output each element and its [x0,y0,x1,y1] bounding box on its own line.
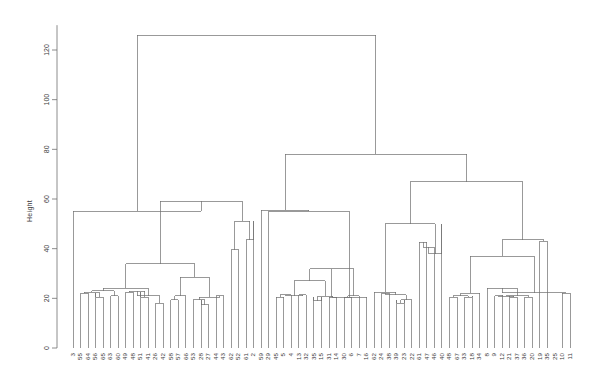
leaf-label: 6 [347,352,354,356]
leaf-label: 49 [121,352,128,359]
leaf-label: 62 [227,352,234,359]
leaf-label: 34 [475,352,482,359]
leaf-label: 27 [204,352,211,359]
leaf-label: 37 [513,352,520,359]
leaf-label: 48 [445,352,452,359]
leaf-label: 2 [249,352,256,356]
leaf-label: 52 [234,352,241,359]
leaf-label: 39 [392,352,399,359]
leaf-label: 29 [264,352,271,359]
leaf-label: 22 [408,352,415,359]
leaf-label: 11 [566,352,573,359]
leaf-label: 43 [219,352,226,359]
leaf-label: 21 [505,352,512,359]
y-axis-tick-label: 120 [43,44,50,56]
y-axis-tick-label: 0 [43,346,50,350]
leaf-label: 24 [377,352,384,359]
leaf-label: 40 [438,352,445,359]
leaf-label: 4 [287,352,294,356]
leaf-label: 41 [144,352,151,359]
leaf-label: 35 [543,352,550,359]
leaf-label: 61 [415,352,422,359]
y-axis-tick-label: 20 [43,294,50,302]
leaf-label: 9 [490,352,497,356]
y-axis-tick-label: 80 [43,145,50,153]
leaf-label: 59 [257,352,264,359]
y-axis-tick-label: 60 [43,195,50,203]
leaf-label: 16 [362,352,369,359]
leaf-label: 51 [136,352,143,359]
leaf-label: 12 [498,352,505,359]
dendrogram-canvas: 0204060801001203556456656360494851412642… [0,0,603,389]
leaf-label: 64 [84,352,91,359]
leaf-label: 55 [76,352,83,359]
leaf-label: 26 [151,352,158,359]
dendrogram-figure: Height 020406080100120355645665636049485… [0,0,603,389]
leaf-label: 56 [91,352,98,359]
leaf-label: 10 [558,352,565,359]
leaf-label: 13 [295,352,302,359]
leaf-label: 62 [370,352,377,359]
y-axis-title: Height [26,200,33,222]
leaf-label: 67 [453,352,460,359]
leaf-label: 58 [167,352,174,359]
leaf-label: 61 [242,352,249,359]
leaf-label: 28 [197,352,204,359]
leaf-label: 25 [551,352,558,359]
leaf-label: 46 [430,352,437,359]
leaf-label: 44 [212,352,219,359]
y-axis: 020406080100120 [43,25,57,350]
y-axis-tick-label: 40 [43,245,50,253]
leaf-label: 38 [385,352,392,359]
leaf-label: 35 [310,352,317,359]
leaf-label: 7 [355,352,362,356]
leaf-label: 42 [159,352,166,359]
leaf-label: 53 [189,352,196,359]
leaf-label: 18 [468,352,475,359]
leaf-label: 63 [106,352,113,359]
leaf-label: 23 [400,352,407,359]
x-axis-leaf-labels: 3556456656360494851412642585766532827444… [69,352,573,359]
leaf-label: 60 [114,352,121,359]
leaf-label: 19 [536,352,543,359]
leaf-label: 57 [174,352,181,359]
leaf-label: 32 [302,352,309,359]
leaf-label: 14 [332,352,339,359]
leaf-label: 33 [460,352,467,359]
leaf-label: 5 [279,352,286,356]
leaf-label: 15 [317,352,324,359]
leaf-label: 65 [99,352,106,359]
y-axis-tick-label: 100 [43,94,50,106]
leaf-label: 66 [182,352,189,359]
leaf-label: 31 [325,352,332,359]
leaf-label: 48 [129,352,136,359]
leaf-label: 45 [272,352,279,359]
leaf-label: 30 [340,352,347,359]
leaf-label: 36 [520,352,527,359]
leaf-label: 47 [423,352,430,359]
leaf-label: 3 [69,352,76,356]
leaf-label: 20 [528,352,535,359]
leaf-label: 8 [483,352,490,356]
